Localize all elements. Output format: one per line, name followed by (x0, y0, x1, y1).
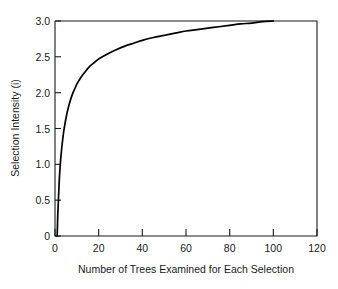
selection-intensity-chart: 0 0.5 1.0 1.5 2.0 2.5 3.0 0 20 40 60 80 … (0, 0, 338, 289)
x-tick-label-1: 20 (93, 242, 105, 254)
y-tick-label-6: 3.0 (35, 15, 50, 27)
y-tick-label-2: 1.0 (35, 158, 50, 170)
y-tick-label-4: 2.0 (35, 87, 50, 99)
plot-frame (55, 21, 317, 236)
x-axis-ticks (55, 229, 317, 236)
x-axis-title: Number of Trees Examined for Each Select… (78, 263, 294, 275)
x-tick-label-3: 60 (180, 242, 192, 254)
y-axis-title: Selection Intensity (i) (9, 79, 21, 176)
x-tick-label-0: 0 (52, 242, 58, 254)
y-tick-label-0: 0 (44, 230, 50, 242)
y-tick-label-1: 0.5 (35, 194, 50, 206)
y-tick-label-5: 2.5 (35, 51, 50, 63)
selection-intensity-curve (57, 21, 273, 236)
x-tick-labels: 0 20 40 60 80 100 120 (52, 242, 326, 254)
x-tick-label-5: 100 (265, 242, 283, 254)
chart-figure: 0 0.5 1.0 1.5 2.0 2.5 3.0 0 20 40 60 80 … (0, 0, 338, 289)
y-tick-labels: 0 0.5 1.0 1.5 2.0 2.5 3.0 (35, 15, 50, 242)
x-tick-label-6: 120 (308, 242, 326, 254)
y-tick-label-3: 1.5 (35, 123, 50, 135)
x-tick-label-2: 40 (136, 242, 148, 254)
x-tick-label-4: 80 (224, 242, 236, 254)
